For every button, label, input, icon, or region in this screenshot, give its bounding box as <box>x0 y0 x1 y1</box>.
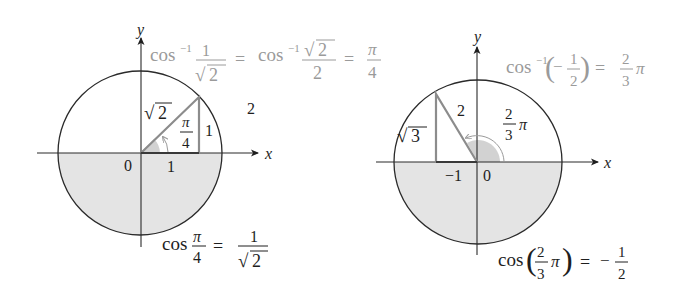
svg-text:π: π <box>636 59 645 78</box>
svg-text:(: ( <box>526 241 537 277</box>
svg-text:−: − <box>600 251 610 270</box>
svg-text:2: 2 <box>618 266 626 282</box>
right-hyp-label: 2 <box>457 102 465 119</box>
right-diagram: y x −1 0 2 √ 3 2 3 π cos −1 ( − 1 2 ) = … <box>376 28 645 282</box>
svg-text:π: π <box>193 228 202 245</box>
svg-text:π: π <box>551 252 560 271</box>
svg-text:−1: −1 <box>180 42 192 54</box>
svg-text:3: 3 <box>537 266 545 282</box>
svg-text:=: = <box>580 252 590 272</box>
right-angle-suffix: π <box>519 116 528 133</box>
left-hyp-value: 2 <box>158 103 167 123</box>
svg-text:cos: cos <box>162 233 187 254</box>
right-bottom-equation: cos ( 2 3 π ) = − 1 2 <box>498 241 628 282</box>
right-side-radical: √ <box>397 125 408 146</box>
svg-text:−1: −1 <box>288 42 300 54</box>
svg-text:=: = <box>213 236 223 256</box>
left-angle-den: 4 <box>182 135 190 151</box>
svg-text:1: 1 <box>618 244 626 260</box>
svg-text:2: 2 <box>318 40 327 60</box>
left-tick-label: 1 <box>167 158 175 175</box>
svg-text:2: 2 <box>537 244 545 260</box>
svg-text:4: 4 <box>193 249 201 266</box>
left-top-equation: cos −1 1 √ 2 = cos −1 √ 2 2 = π 4 <box>150 39 381 85</box>
svg-text:2: 2 <box>209 65 218 85</box>
left-diagram: y x 0 1 √ 2 π 4 1 2 cos −1 1 √ 2 = cos −… <box>37 21 381 271</box>
left-lower-half-shade <box>58 153 222 235</box>
left-angle-arc-icon <box>163 137 168 152</box>
left-y-label: y <box>135 21 145 39</box>
svg-text:1: 1 <box>570 51 578 67</box>
right-side-value: 3 <box>411 126 420 146</box>
svg-text:1: 1 <box>202 42 210 59</box>
left-opposite-label: 1 <box>205 122 213 139</box>
right-x-label: x <box>603 154 611 171</box>
svg-text:=: = <box>344 49 354 69</box>
svg-text:√: √ <box>238 250 249 271</box>
right-origin-label: 0 <box>483 167 491 184</box>
left-hyp-radical: √ <box>144 102 155 123</box>
svg-text:): ) <box>580 50 590 84</box>
svg-text:−: − <box>553 57 563 76</box>
svg-text:2: 2 <box>570 73 578 89</box>
right-angle-den: 3 <box>505 127 513 143</box>
svg-text:cos: cos <box>258 44 283 65</box>
svg-text:1: 1 <box>250 228 258 245</box>
svg-text:cos: cos <box>498 249 523 270</box>
svg-text:π: π <box>368 40 377 59</box>
svg-text:4: 4 <box>368 63 377 82</box>
left-bottom-equation: cos π 4 = 1 √ 2 <box>162 228 268 271</box>
svg-text:3: 3 <box>622 73 630 89</box>
svg-text:2: 2 <box>252 251 261 271</box>
right-lower-half-shade <box>394 162 562 244</box>
right-tick-label: −1 <box>445 167 462 184</box>
svg-text:2: 2 <box>313 63 322 83</box>
svg-text:cos: cos <box>506 56 531 77</box>
left-radius-label: 2 <box>247 100 255 117</box>
left-origin-label: 0 <box>124 157 132 174</box>
svg-text:2: 2 <box>622 51 630 67</box>
right-angle-num: 2 <box>505 106 513 122</box>
svg-text:=: = <box>595 58 605 78</box>
svg-text:): ) <box>562 241 573 277</box>
svg-text:√: √ <box>195 64 206 85</box>
left-x-label: x <box>264 145 272 162</box>
svg-text:√: √ <box>304 39 315 60</box>
svg-text:cos: cos <box>150 44 175 65</box>
svg-text:=: = <box>235 49 245 69</box>
left-angle-num: π <box>182 114 190 130</box>
inverse-cosine-figure: y x 0 1 √ 2 π 4 1 2 cos −1 1 √ 2 = cos −… <box>0 0 681 291</box>
right-angle-sector <box>467 140 500 162</box>
right-top-equation: cos −1 ( − 1 2 ) = 2 3 π <box>506 50 645 89</box>
right-y-label: y <box>472 28 482 46</box>
